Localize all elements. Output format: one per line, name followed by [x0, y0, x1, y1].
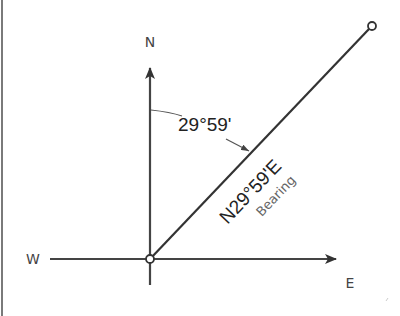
diagram-svg: N W E 29°59' N29°59'E Bearing: [0, 0, 400, 316]
east-label: E: [346, 275, 355, 291]
bearing-diagram: N W E 29°59' N29°59'E Bearing: [0, 0, 400, 316]
west-label: W: [26, 251, 40, 267]
bearing-line: [150, 22, 376, 259]
end-point-icon: [368, 22, 376, 30]
north-label: N: [145, 34, 155, 50]
artifact-mark: [386, 298, 388, 301]
angle-label: 29°59': [178, 114, 232, 135]
origin-point-icon: [146, 255, 154, 263]
